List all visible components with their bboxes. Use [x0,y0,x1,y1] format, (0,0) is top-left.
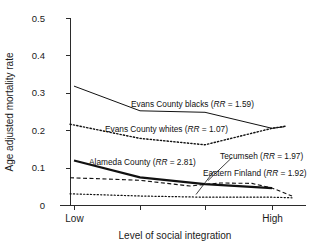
annotation-evans-county-blacks: Evans County blacks (RR = 1.59) [131,99,254,109]
x-tick-label-high: High [262,213,283,224]
annotation-tecumseh: Tecumseh (RR = 1.97) [220,151,303,161]
annotation-eastern-finland: Eastern Finland (RR = 1.92) [203,168,307,178]
annotation-evans-county-whites: Evans County whites (RR = 1.07) [105,124,228,134]
y-tick-label-0.5: 0.5 [32,13,45,24]
y-tick-label-0.2: 0.2 [32,125,45,136]
line-chart: Age adjusted mortality rate 0.5 0.4 0.3 … [0,0,313,243]
x-axis-label: Level of social integration [119,230,232,241]
y-tick-label-0: 0 [40,200,45,211]
y-tick-label-0.1: 0.1 [32,162,45,173]
annotation-alameda-county: Alameda County (RR = 2.81) [89,157,196,167]
series-line-eastern-finland [70,194,292,198]
y-tick-label-0.3: 0.3 [32,87,45,98]
y-axis-label: Age adjusted mortality rate [4,52,15,171]
figure-container: Age adjusted mortality rate 0.5 0.4 0.3 … [0,0,313,243]
x-tick-label-low: Low [65,213,84,224]
y-tick-label-0.4: 0.4 [32,50,45,61]
